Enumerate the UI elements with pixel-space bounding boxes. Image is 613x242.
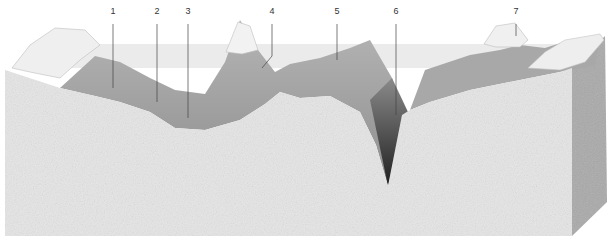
label-5: 5 bbox=[334, 6, 339, 16]
label-3: 3 bbox=[185, 6, 190, 16]
label-6: 6 bbox=[393, 6, 398, 16]
volcano-peak bbox=[226, 22, 258, 54]
seafloor-block-diagram: 1 2 3 4 5 6 7 bbox=[0, 0, 613, 242]
island-7 bbox=[484, 23, 528, 47]
label-2: 2 bbox=[154, 6, 159, 16]
label-4: 4 bbox=[269, 6, 274, 16]
label-7: 7 bbox=[513, 6, 518, 16]
label-1: 1 bbox=[110, 6, 115, 16]
diagram-canvas bbox=[0, 0, 613, 242]
